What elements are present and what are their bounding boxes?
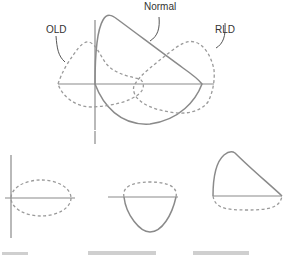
normal-pointer [150, 17, 159, 41]
old-pointer [56, 36, 65, 62]
normal-curve [95, 15, 202, 124]
diagram-canvas [0, 0, 292, 255]
panel-3-caption-fragment [193, 251, 249, 255]
panel-2-solid-curve [124, 197, 176, 232]
rld-curve [134, 41, 215, 113]
rld-label: RLD [215, 24, 235, 35]
old-label: OLD [46, 24, 67, 35]
normal-label: Normal [144, 1, 176, 12]
panel-3-solid-curve [213, 152, 282, 196]
panel-2-caption-fragment [88, 251, 156, 255]
panel-3-dashed-arc [213, 196, 282, 210]
panel-2-dashed-arc [124, 182, 177, 197]
